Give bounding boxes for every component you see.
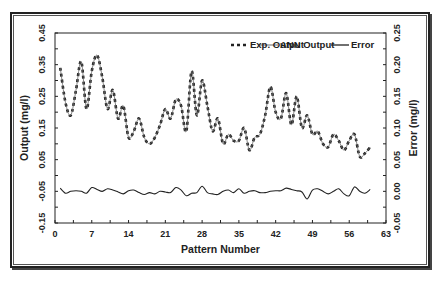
y-tick-label: -0.05 [37, 181, 47, 202]
x-tick-label: 49 [307, 229, 317, 239]
legend: Exp. OutputANN OutputError [231, 39, 375, 50]
x-axis-title: Pattern Number [181, 243, 260, 255]
series-layer [60, 55, 370, 199]
x-tick-label: 35 [234, 229, 244, 239]
series-error [60, 186, 370, 199]
y-right-tick-label: 0.10 [392, 119, 402, 137]
y-right-tick-label: 0.00 [392, 183, 402, 201]
y-tick-label: 0.35 [37, 56, 47, 74]
y-right-tick-label: 0.05 [392, 151, 402, 169]
y-right-tick-label: 0.15 [392, 88, 402, 106]
y-tick-label: -0.15 [37, 213, 47, 234]
series-ann-output [60, 55, 370, 157]
x-tick-label: 21 [160, 229, 170, 239]
x-tick-label: 0 [52, 229, 57, 239]
x-tick-label: 14 [124, 229, 134, 239]
y-right-axis-title: Error (mg/l) [407, 99, 419, 156]
y-tick-label: 0.25 [37, 88, 47, 106]
y-right-tick-label: 0.25 [392, 24, 402, 42]
x-tick-label: 56 [344, 229, 354, 239]
x-tick-label: 42 [271, 229, 281, 239]
y-tick-label: 0.05 [37, 151, 47, 169]
x-tick-label: 28 [197, 229, 207, 239]
x-tick-label: 7 [89, 229, 94, 239]
y-axis-title: Output (mg/l) [18, 95, 30, 161]
y-right-tick-label: -0.05 [392, 213, 402, 234]
y-tick-label: 0.15 [37, 119, 47, 137]
line-chart: 071421283542495663-0.15-0.050.050.150.25… [0, 0, 440, 286]
axes: 071421283542495663-0.15-0.050.050.150.25… [18, 24, 419, 255]
x-tick-label: 63 [381, 229, 391, 239]
legend-label-ann-output: ANN Output [280, 39, 335, 50]
legend-label-error: Error [351, 39, 375, 50]
y-right-tick-label: 0.20 [392, 56, 402, 74]
y-tick-label: 0.45 [37, 24, 47, 42]
